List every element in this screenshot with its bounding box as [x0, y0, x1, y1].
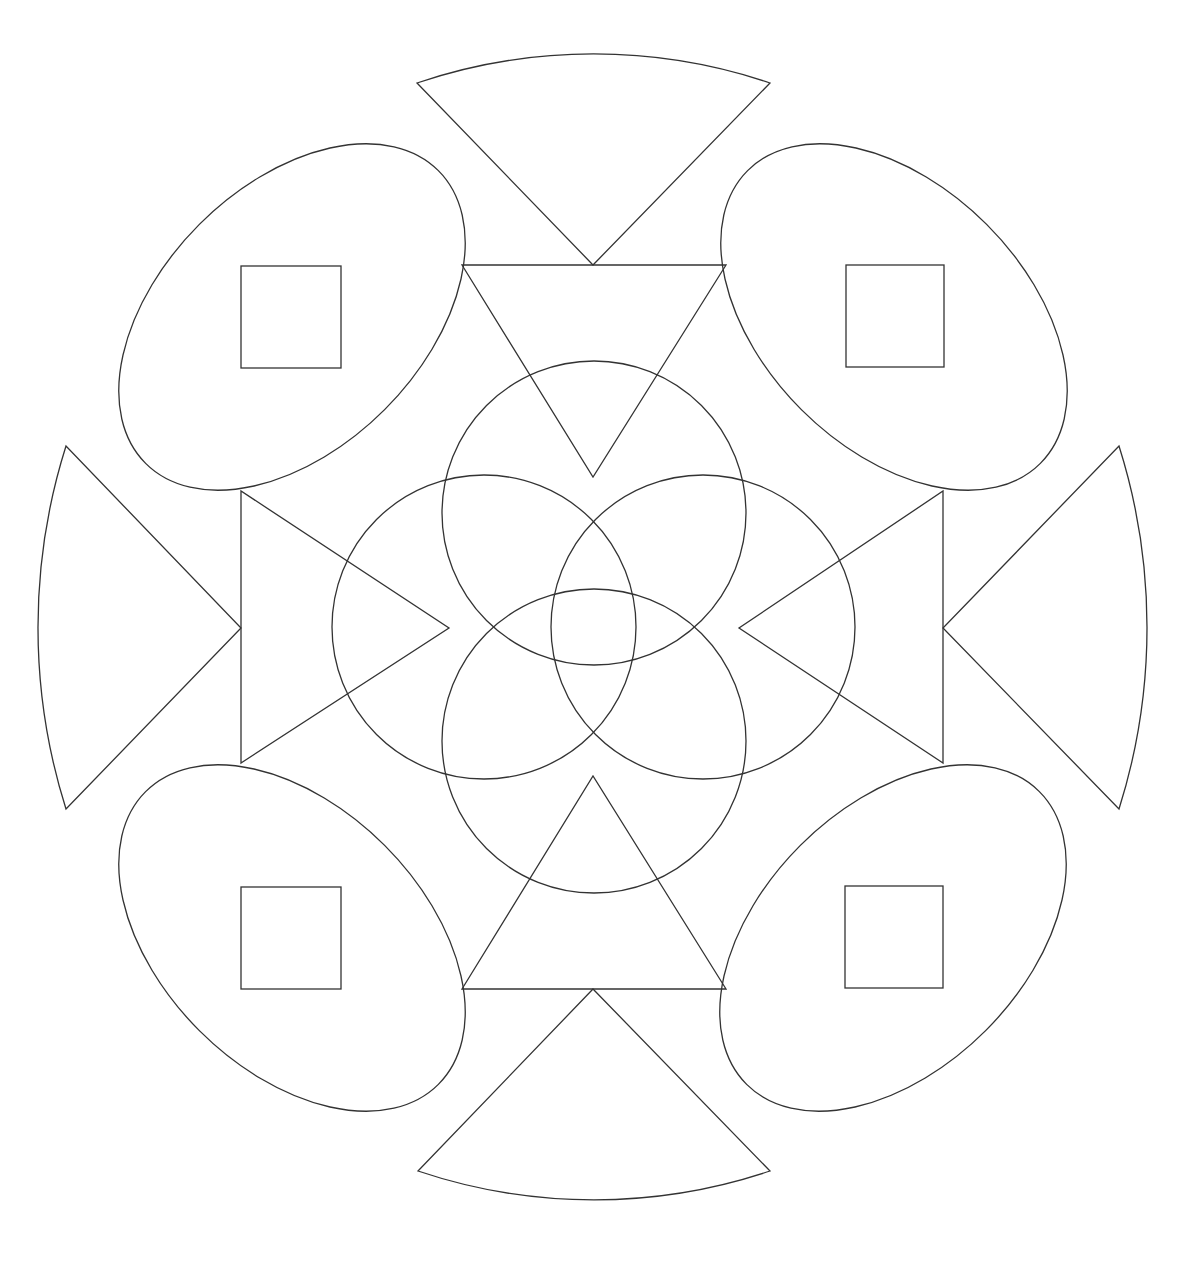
circle-right: [551, 475, 855, 779]
square-top-left: [241, 266, 341, 368]
triangle-left: [241, 491, 449, 763]
triangle-top: [462, 265, 726, 477]
corner-ovals: [53, 78, 1133, 1177]
outer-wedges: [38, 54, 1147, 1200]
square-bottom-right: [845, 886, 943, 988]
circle-left: [332, 475, 636, 779]
wedge-right: [943, 446, 1147, 809]
oval-bottom-right: [654, 699, 1132, 1177]
oval-top-left: [53, 78, 531, 556]
center-circles: [332, 361, 855, 893]
square-top-right: [846, 265, 944, 367]
oval-top-right: [655, 78, 1133, 556]
inner-triangles: [241, 265, 943, 989]
oval-bottom-left: [53, 699, 531, 1177]
wedge-top: [417, 54, 770, 265]
square-bottom-left: [241, 887, 341, 989]
circle-bottom: [442, 589, 746, 893]
wedge-bottom: [418, 989, 770, 1200]
triangle-bottom: [462, 776, 726, 989]
wedge-left: [38, 446, 241, 809]
triangle-right: [739, 491, 943, 763]
mandala-drawing: [0, 0, 1188, 1263]
circle-top: [442, 361, 746, 665]
